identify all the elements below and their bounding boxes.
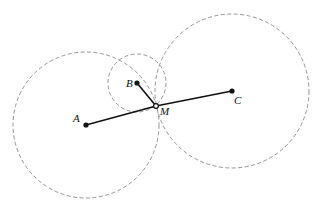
label-a: A [72,112,80,124]
point-a [83,122,88,127]
segment-mc [156,91,232,106]
point-b [134,80,139,85]
label-b: B [126,77,133,89]
segment-am [86,106,156,125]
point-c [229,88,234,93]
geometry-diagram: A B C M [0,0,317,209]
label-m: M [159,105,170,117]
point-m [154,104,159,109]
segment-bm [137,83,156,106]
label-c: C [234,94,242,106]
